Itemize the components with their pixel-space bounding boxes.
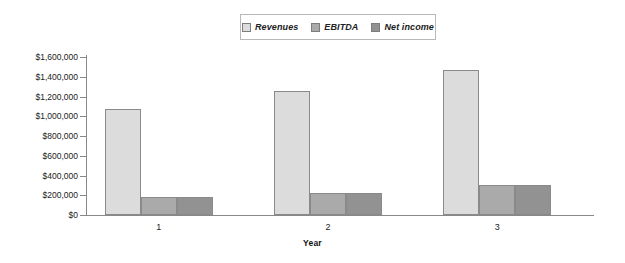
bar-net-income: [346, 193, 382, 215]
y-axis-tick-label: $1,200,000: [6, 92, 78, 102]
bar-group: [443, 57, 551, 215]
bar-revenues: [274, 91, 310, 215]
y-axis-tick-label: $400,000: [6, 171, 78, 181]
legend-item-revenues: Revenues: [242, 22, 298, 32]
legend-item-net-income: Net income: [371, 22, 434, 32]
bar-group: [274, 57, 382, 215]
bar-ebitda: [310, 193, 346, 215]
y-axis-tick-label: $600,000: [6, 151, 78, 161]
y-axis-tick-label: $1,400,000: [6, 72, 78, 82]
x-axis-category-label: 1: [156, 222, 161, 232]
x-axis-category-label: 3: [495, 222, 500, 232]
chart-legend: Revenues EBITDA Net income: [240, 14, 436, 40]
bar-net-income: [515, 185, 551, 215]
legend-label-net-income: Net income: [384, 22, 434, 32]
x-axis-line: [86, 215, 594, 216]
bar-chart: Revenues EBITDA Net income $0$200,000$40…: [0, 0, 625, 263]
bar-revenues: [443, 70, 479, 215]
y-axis-labels: $0$200,000$400,000$600,000$800,000$1,000…: [0, 0, 78, 263]
bar-ebitda: [479, 185, 515, 215]
x-axis-category-label: 2: [325, 222, 330, 232]
y-axis-tick-label: $0: [6, 210, 78, 220]
legend-swatch-ebitda: [311, 23, 320, 32]
plot-area: [86, 57, 594, 215]
y-axis-tick-label: $200,000: [6, 190, 78, 200]
legend-item-ebitda: EBITDA: [311, 22, 358, 32]
legend-label-ebitda: EBITDA: [324, 22, 358, 32]
y-axis-tick-label: $800,000: [6, 131, 78, 141]
legend-swatch-revenues: [242, 23, 251, 32]
bar-net-income: [177, 197, 213, 215]
bar-ebitda: [141, 197, 177, 215]
y-axis-tick: [80, 215, 86, 216]
y-axis-tick-label: $1,600,000: [6, 52, 78, 62]
bar-group: [105, 57, 213, 215]
bar-revenues: [105, 109, 141, 215]
legend-swatch-net-income: [371, 23, 380, 32]
legend-label-revenues: Revenues: [255, 22, 298, 32]
y-axis-tick-label: $1,000,000: [6, 111, 78, 121]
x-axis-title: Year: [0, 238, 625, 248]
